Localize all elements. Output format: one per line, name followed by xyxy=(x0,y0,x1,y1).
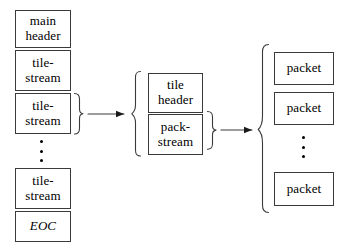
box-pack-stream-line1: pack- xyxy=(161,120,190,135)
box-tile-header-line1: tile xyxy=(167,78,184,93)
ellipsis-dot xyxy=(40,140,43,143)
vertical-ellipsis-codestream xyxy=(39,140,44,162)
ellipsis-dot xyxy=(302,155,305,158)
box-tile-stream-2-line2: stream xyxy=(25,114,60,129)
box-pack-stream-line2: stream xyxy=(158,135,193,150)
box-tile-stream-n: tile- stream xyxy=(15,168,71,209)
box-tile-stream-1: tile- stream xyxy=(15,50,71,91)
box-tile-stream-1-line2: stream xyxy=(25,71,60,86)
box-main-header: main header xyxy=(15,10,71,48)
brace-pack-stream-right xyxy=(208,112,217,150)
box-pack-stream: pack- stream xyxy=(148,114,203,155)
box-eoc-label: EOC xyxy=(30,219,56,234)
arrow-2-head xyxy=(244,127,252,133)
codestream-structure-diagram: main header tile- stream tile- stream ti… xyxy=(0,0,349,252)
box-packet-n-label: packet xyxy=(287,182,322,197)
arrow-1-head xyxy=(116,111,124,117)
box-packet-n: packet xyxy=(274,172,334,206)
ellipsis-dot xyxy=(302,146,305,149)
box-packet-2: packet xyxy=(274,92,334,125)
box-tile-stream-2: tile- stream xyxy=(15,93,71,134)
vertical-ellipsis-packstream xyxy=(301,136,306,158)
box-main-header-line1: main xyxy=(30,14,56,29)
ellipsis-dot xyxy=(40,150,43,153)
box-packet-1: packet xyxy=(274,52,334,85)
brace-packstream-left xyxy=(258,45,268,213)
box-tile-stream-2-line1: tile- xyxy=(32,99,53,114)
ellipsis-dot xyxy=(302,136,305,139)
box-tile-stream-1-line1: tile- xyxy=(32,56,53,71)
box-main-header-line2: header xyxy=(25,29,60,44)
box-tile-stream-n-line1: tile- xyxy=(32,174,53,189)
brace-tilestream-left xyxy=(132,72,141,157)
box-packet-1-label: packet xyxy=(287,61,322,76)
box-eoc: EOC xyxy=(15,211,71,242)
box-tile-header-line2: header xyxy=(158,93,193,108)
ellipsis-dot xyxy=(40,159,43,162)
brace-tile-stream-right xyxy=(75,94,84,135)
box-packet-2-label: packet xyxy=(287,101,322,116)
box-tile-header: tile header xyxy=(148,73,203,113)
box-tile-stream-n-line2: stream xyxy=(25,189,60,204)
